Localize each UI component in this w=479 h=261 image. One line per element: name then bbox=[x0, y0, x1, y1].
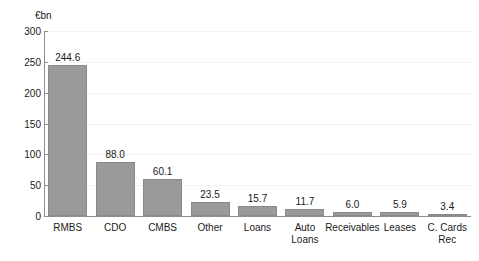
bar bbox=[238, 206, 277, 216]
bar bbox=[428, 214, 467, 216]
bar-value-label: 244.6 bbox=[44, 52, 91, 63]
bar-value-label: 6.0 bbox=[329, 199, 376, 210]
bar bbox=[333, 212, 372, 216]
y-axis-tick-mark bbox=[44, 93, 48, 94]
x-axis-category-label: C. Cards Rec bbox=[420, 222, 475, 245]
bar-value-label: 88.0 bbox=[91, 149, 138, 160]
bar-value-label: 5.9 bbox=[376, 199, 423, 210]
y-axis-tick-mark bbox=[44, 124, 48, 125]
bar bbox=[96, 162, 135, 216]
bar bbox=[143, 179, 182, 216]
bar-value-label: 15.7 bbox=[234, 193, 281, 204]
bar-value-label: 3.4 bbox=[424, 201, 471, 212]
bars-layer: 244.6RMBS88.0CDO60.1CMBS23.5Other15.7Loa… bbox=[0, 0, 479, 261]
y-axis-tick-mark bbox=[44, 62, 48, 63]
y-axis-tick-mark bbox=[44, 216, 48, 217]
bar-value-label: 60.1 bbox=[139, 166, 186, 177]
bar bbox=[48, 65, 87, 216]
y-axis-tick-mark bbox=[44, 154, 48, 155]
bar-chart: €bn 050100150200250300 244.6RMBS88.0CDO6… bbox=[0, 0, 479, 261]
bar bbox=[191, 202, 230, 216]
y-axis-tick-mark bbox=[44, 185, 48, 186]
bar-value-label: 23.5 bbox=[186, 189, 233, 200]
bar-value-label: 11.7 bbox=[281, 196, 328, 207]
bar bbox=[380, 212, 419, 216]
bar bbox=[285, 209, 324, 216]
y-axis-tick-mark bbox=[44, 31, 48, 32]
